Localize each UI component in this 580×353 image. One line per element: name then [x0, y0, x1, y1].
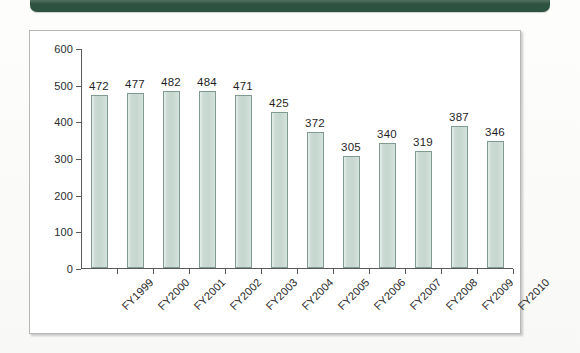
bar-value-label: 477: [125, 78, 145, 90]
bar: [415, 151, 432, 268]
bar-value-label: 346: [485, 126, 505, 138]
x-axis-label: FY1999: [119, 276, 155, 312]
header-banner: [30, 0, 550, 12]
x-axis-label: FY2007: [407, 276, 443, 312]
x-axis-tick: [261, 269, 262, 274]
x-axis-tick: [513, 269, 514, 274]
bar: [91, 95, 108, 268]
x-axis-label: FY2010: [515, 276, 551, 312]
y-axis-tick: [76, 122, 81, 123]
chart-panel: 0100200300400500600 FY1999FY2000FY2001FY…: [29, 30, 521, 334]
y-axis-tick: [76, 159, 81, 160]
y-axis-tick: [76, 269, 81, 270]
bar-value-label: 340: [377, 128, 397, 140]
y-axis-tick: [76, 49, 81, 50]
bar: [163, 91, 180, 268]
x-axis-label: FY2009: [479, 276, 515, 312]
y-axis-tick: [76, 232, 81, 233]
bar: [487, 141, 504, 268]
y-axis-label: 500: [54, 80, 73, 92]
bar-value-label: 472: [89, 80, 109, 92]
x-axis-tick: [405, 269, 406, 274]
bar: [235, 95, 252, 268]
bar-value-label: 425: [269, 97, 289, 109]
x-axis-label: FY2002: [227, 276, 263, 312]
bar: [271, 112, 288, 268]
bar: [343, 156, 360, 268]
x-axis-tick: [189, 269, 190, 274]
y-axis-label: 200: [54, 190, 73, 202]
x-axis-label: FY2003: [263, 276, 299, 312]
x-axis-tick: [225, 269, 226, 274]
x-axis-tick: [333, 269, 334, 274]
bar: [451, 126, 468, 268]
x-axis-tick: [153, 269, 154, 274]
y-axis-label: 400: [54, 116, 73, 128]
bar-value-label: 482: [161, 76, 181, 88]
y-axis-label: 0: [67, 263, 73, 275]
bar-value-label: 319: [413, 136, 433, 148]
x-axis-tick: [477, 269, 478, 274]
x-axis-label: FY2000: [155, 276, 191, 312]
plot-area: 0100200300400500600 FY1999FY2000FY2001FY…: [81, 49, 513, 269]
bar: [379, 143, 396, 268]
x-axis-tick: [441, 269, 442, 274]
x-axis-label: FY2001: [191, 276, 227, 312]
y-axis-line: [81, 49, 82, 269]
x-axis-tick: [297, 269, 298, 274]
y-axis-tick: [76, 86, 81, 87]
x-axis-label: FY2004: [299, 276, 335, 312]
x-axis-label: FY2008: [443, 276, 479, 312]
scanned-page-background: 0100200300400500600 FY1999FY2000FY2001FY…: [0, 0, 580, 353]
bar-value-label: 484: [197, 76, 217, 88]
bar-value-label: 471: [233, 80, 253, 92]
y-axis-label: 100: [54, 226, 73, 238]
x-axis-tick: [117, 269, 118, 274]
y-axis-label: 600: [54, 43, 73, 55]
x-axis-tick: [369, 269, 370, 274]
bar: [199, 91, 216, 268]
bar-value-label: 305: [341, 141, 361, 153]
y-axis-label: 300: [54, 153, 73, 165]
x-axis-label: FY2006: [371, 276, 407, 312]
x-axis-label: FY2005: [335, 276, 371, 312]
bar-value-label: 372: [305, 117, 325, 129]
bar-value-label: 387: [449, 111, 469, 123]
bar: [307, 132, 324, 268]
y-axis-tick: [76, 196, 81, 197]
bar: [127, 93, 144, 268]
banner-highlight: [30, 0, 550, 4]
